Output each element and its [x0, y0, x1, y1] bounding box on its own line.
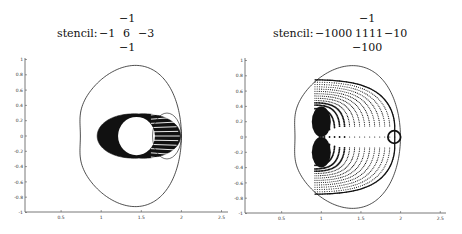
x-tick-label: 1.5 — [357, 216, 364, 221]
y-tick-label: -0.2 — [234, 150, 243, 155]
y-tick-label: -1 — [239, 211, 244, 216]
x-tick-label: 1 — [320, 216, 323, 221]
x-tick-label: 0.5 — [278, 216, 285, 221]
y-tick-label: 0.6 — [236, 89, 243, 94]
y-tick-label: 0 — [240, 135, 243, 140]
plot-right: 0.511.522.5-1-0.8-0.6-0.4-0.200.20.40.60… — [0, 0, 462, 234]
y-tick-label: 0.8 — [236, 73, 243, 78]
x-tick-label: 2 — [399, 216, 402, 221]
y-tick-label: -0.4 — [234, 165, 243, 170]
y-tick-label: 0.2 — [236, 119, 243, 124]
y-tick-label: -0.6 — [234, 181, 243, 186]
y-tick-label: 0.4 — [236, 104, 243, 109]
eigenvalue-points — [312, 79, 401, 194]
x-tick-label: 2.5 — [437, 216, 444, 221]
y-tick-label: -0.8 — [234, 196, 243, 201]
y-tick-label: 1 — [240, 58, 243, 63]
